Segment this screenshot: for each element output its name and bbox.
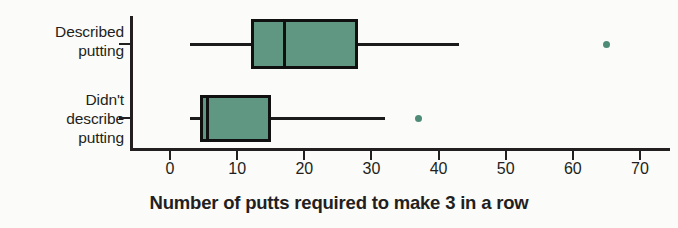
x-axis-tick-60 xyxy=(572,151,574,160)
box-1 xyxy=(200,95,271,142)
x-axis-tick-label-0: 0 xyxy=(150,160,190,178)
x-axis-line xyxy=(130,148,670,151)
x-axis-tick-label-60: 60 xyxy=(553,160,593,178)
x-axis-tick-20 xyxy=(303,151,305,160)
x-axis-tick-40 xyxy=(438,151,440,160)
x-axis-tick-30 xyxy=(370,151,372,160)
whisker-low-1 xyxy=(190,117,200,120)
y-axis-tick-1 xyxy=(119,117,131,119)
y-axis-tick-0 xyxy=(119,43,131,45)
whisker-high-0 xyxy=(358,43,459,46)
box-0 xyxy=(251,19,358,69)
x-axis-tick-0 xyxy=(169,151,171,160)
x-axis-tick-10 xyxy=(236,151,238,160)
y-axis-category-label-described-putting: Described putting xyxy=(8,22,124,60)
x-axis-tick-label-10: 10 xyxy=(217,160,257,178)
outlier-dot-1-0 xyxy=(415,115,422,122)
x-axis-tick-50 xyxy=(505,151,507,160)
x-axis-tick-label-20: 20 xyxy=(284,160,324,178)
outlier-dot-0-0 xyxy=(603,41,610,48)
median-line-0 xyxy=(283,19,286,69)
x-axis-tick-70 xyxy=(639,151,641,160)
x-axis-tick-label-40: 40 xyxy=(419,160,459,178)
median-line-1 xyxy=(206,95,209,142)
x-axis-tick-label-50: 50 xyxy=(486,160,526,178)
whisker-high-1 xyxy=(271,117,385,120)
whisker-low-0 xyxy=(190,43,250,46)
x-axis-title: Number of putts required to make 3 in a … xyxy=(0,192,678,214)
boxplot-figure: Described putting Didn't describe puttin… xyxy=(0,0,678,228)
y-axis-line xyxy=(130,16,133,150)
x-axis-tick-label-30: 30 xyxy=(351,160,391,178)
x-axis-tick-label-70: 70 xyxy=(620,160,660,178)
y-axis-category-label-didnt-describe-putting: Didn't describe putting xyxy=(8,90,124,147)
